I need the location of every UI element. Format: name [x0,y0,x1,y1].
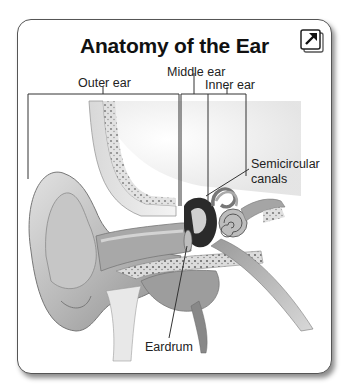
label-semicircular-line1: Semicircular [251,157,320,171]
label-inner-ear: Inner ear [205,78,255,92]
label-semicircular-line2: canals [251,172,287,186]
expand-arrow-icon [299,28,325,54]
label-middle-ear: Middle ear [167,65,225,79]
expand-button[interactable] [299,28,325,54]
label-eardrum: Eardrum [145,340,193,354]
diagram-card: Anatomy of the Ear Outer ear Middle ear … [17,19,332,374]
figure-title: Anatomy of the Ear [18,34,331,58]
label-outer-ear: Outer ear [78,76,131,90]
